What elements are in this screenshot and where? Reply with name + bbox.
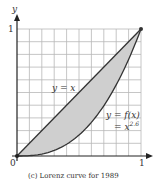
origin-label: 0 [10,158,16,168]
curve-label-2: = x2.6 [114,120,139,132]
point-one-one [139,27,143,31]
caption: (c) Lorenz curve for 1989 [28,172,119,179]
x-axis-arrow-icon [146,153,153,159]
curve-label-1: y = f(x) [105,110,140,120]
y-axis-label: y [11,4,18,14]
y-tick-one: 1 [8,24,14,34]
lorenz-chart: y 1 0 1 y = x y = f(x) = x2.6 (c) Lorenz… [0,0,155,179]
x-tick-one: 1 [139,158,145,168]
line-label: y = x [51,83,75,93]
y-axis-arrow-icon [14,14,20,21]
